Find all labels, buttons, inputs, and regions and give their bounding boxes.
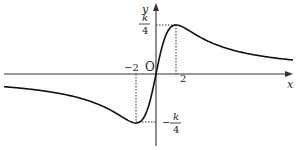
origin-label: O bbox=[145, 60, 155, 74]
x-axis: x bbox=[4, 71, 294, 91]
max-numerator: k bbox=[142, 12, 148, 23]
max-denominator: 4 bbox=[142, 25, 148, 36]
function-graph: x y O −2 2 k 4 − k 4 bbox=[0, 0, 297, 150]
min-sign: − bbox=[162, 117, 170, 128]
y-axis-arrow-icon bbox=[153, 3, 159, 11]
tick-label-pos-two: 2 bbox=[180, 73, 186, 84]
tick-label-neg-two: −2 bbox=[124, 62, 139, 73]
min-denominator: 4 bbox=[173, 124, 179, 135]
max-value-label: k 4 bbox=[139, 12, 150, 36]
min-numerator: k bbox=[173, 111, 179, 122]
x-axis-label: x bbox=[287, 78, 294, 91]
min-value-label: − k 4 bbox=[162, 111, 181, 135]
x-axis-arrow-icon bbox=[285, 71, 293, 77]
